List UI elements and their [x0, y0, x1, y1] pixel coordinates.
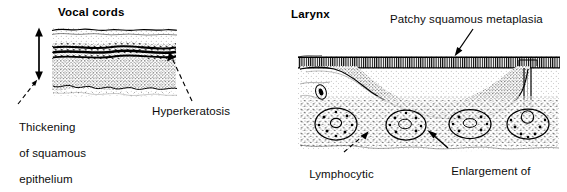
histology-figure: Vocal cords Thickening of squamous epith…	[0, 0, 567, 192]
lymphocytic-reaction-label: Lymphocytic reaction	[296, 155, 374, 192]
thickening-label-line3: epithelium	[19, 173, 72, 185]
enlargement-label-line2: mucous glands	[451, 191, 530, 192]
vocal-cords-title: Vocal cords	[58, 6, 125, 19]
enlargement-label-line1: Enlargement of	[451, 165, 530, 177]
lymphocyte-clusters	[300, 96, 558, 146]
hyperkeratosis-label: Hyperkeratosis	[152, 105, 230, 118]
patchy-squamous-metaplasia-label: Patchy squamous metaplasia	[390, 13, 543, 26]
thickening-label-line1: Thickening	[19, 121, 76, 133]
lymphocytic-label-line1: Lymphocytic	[309, 168, 374, 180]
thickening-leader-icon	[18, 80, 37, 104]
thickness-double-arrow-icon	[35, 28, 43, 81]
vocal-cords-illustration	[18, 26, 192, 104]
thickening-label: Thickening of squamous epithelium	[6, 108, 86, 192]
enlargement-mucous-glands-label: Enlargement of mucous glands	[438, 152, 531, 192]
patchy-metaplasia-leader-icon	[455, 29, 473, 56]
larynx-title: Larynx	[291, 8, 330, 21]
thickening-label-line2: of squamous	[19, 147, 86, 159]
larynx-illustration	[296, 29, 562, 152]
